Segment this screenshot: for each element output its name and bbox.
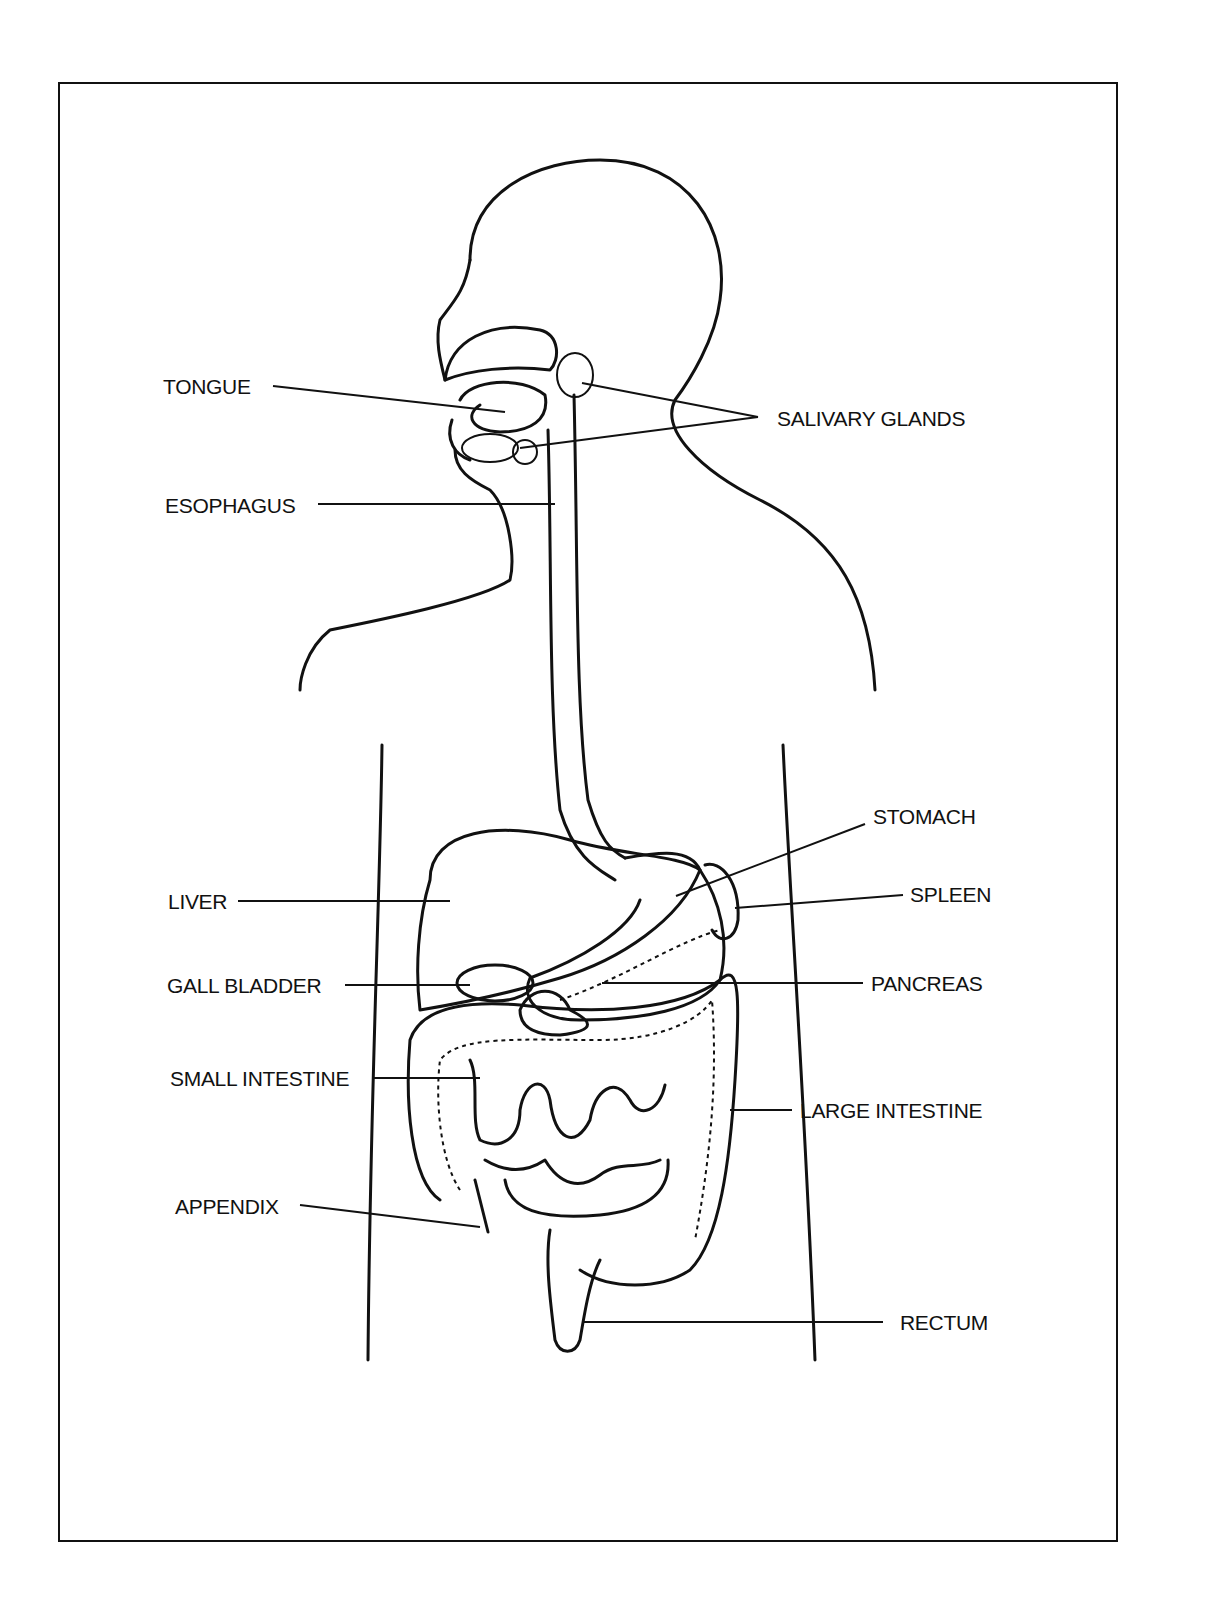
label-liver: LIVER <box>168 891 227 912</box>
label-rectum: RECTUM <box>900 1312 988 1333</box>
rectum-shape <box>548 1230 600 1351</box>
label-pancreas: PANCREAS <box>871 973 983 994</box>
label-gall-bladder: GALL BLADDER <box>167 975 321 996</box>
mouth-region <box>445 327 593 464</box>
label-small-intestine: SMALL INTESTINE <box>170 1068 349 1089</box>
appendix-shape <box>475 1180 488 1232</box>
esophagus-tube <box>548 395 625 880</box>
label-esophagus: ESOPHAGUS <box>165 495 295 516</box>
small-intestine-shape <box>470 1060 668 1216</box>
label-large-intestine: LARGE INTESTINE <box>800 1100 982 1121</box>
pancreas-shape <box>520 991 588 1035</box>
label-salivary-glands: SALIVARY GLANDS <box>777 408 965 429</box>
large-intestine-shape <box>408 975 737 1285</box>
label-spleen: SPLEEN <box>910 884 991 905</box>
label-stomach: STOMACH <box>873 806 976 827</box>
label-appendix: APPENDIX <box>175 1196 279 1217</box>
digestive-system-illustration <box>0 0 1215 1618</box>
body-outline <box>300 160 875 1360</box>
label-tongue: TONGUE <box>163 376 251 397</box>
